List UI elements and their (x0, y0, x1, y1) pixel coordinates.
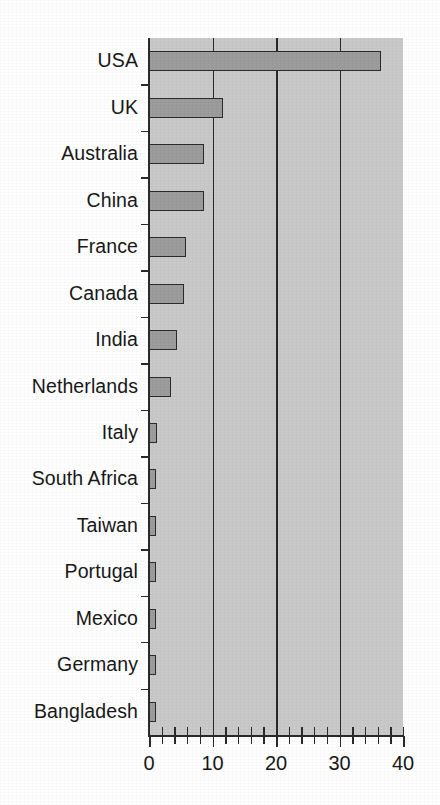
y-axis-line (148, 38, 150, 737)
category-label: China (87, 191, 138, 211)
gridline (276, 38, 278, 735)
x-axis-major-tick (276, 736, 278, 747)
category-label: Taiwan (77, 516, 138, 536)
bar (149, 516, 156, 536)
x-axis-major-tick (149, 736, 151, 747)
bar (149, 702, 156, 722)
category-label: Netherlands (32, 377, 138, 397)
gridline (213, 38, 215, 735)
x-axis-major-tick (340, 736, 342, 747)
bar (149, 609, 156, 629)
bar (149, 562, 156, 582)
bar (149, 423, 157, 443)
category-label: Australia (61, 144, 138, 164)
category-label: France (77, 237, 138, 257)
bar (149, 330, 177, 350)
category-label: India (95, 330, 138, 350)
category-label: Mexico (76, 609, 138, 629)
bar (149, 377, 171, 397)
gridline (340, 38, 342, 735)
x-axis-line (148, 735, 404, 737)
category-label: South Africa (32, 469, 138, 489)
bar (149, 98, 223, 118)
bar (149, 284, 184, 304)
bar (149, 144, 204, 164)
x-tick-label: 10 (183, 753, 243, 773)
category-label: Italy (102, 423, 138, 443)
x-tick-label: 20 (246, 753, 306, 773)
category-label: UK (111, 98, 138, 118)
x-tick-label: 30 (310, 753, 370, 773)
bar (149, 191, 204, 211)
category-label: Germany (57, 655, 138, 675)
bar-chart: USAUKAustraliaChinaFranceCanadaIndiaNeth… (0, 0, 440, 805)
bar (149, 469, 156, 489)
category-label: Canada (69, 284, 138, 304)
x-axis-major-tick (403, 736, 405, 747)
bar (149, 237, 186, 257)
x-axis-major-tick (213, 736, 215, 747)
x-tick-label: 0 (119, 753, 179, 773)
category-label: Portugal (65, 562, 138, 582)
x-tick-label: 40 (373, 753, 433, 773)
bar (149, 655, 156, 675)
category-label: Bangladesh (34, 702, 138, 722)
bar (149, 51, 381, 71)
category-label: USA (98, 51, 138, 71)
